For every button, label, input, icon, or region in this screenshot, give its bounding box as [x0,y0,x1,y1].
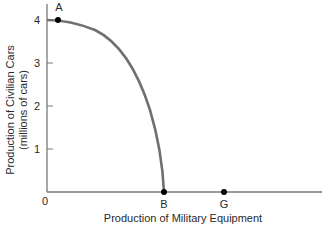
point-a [55,17,61,23]
ppf-chart: 4 3 2 1 0 A B G Production of Military E… [0,0,334,233]
y-tick-4: 4 [34,14,40,26]
point-a-label: A [55,1,63,13]
point-b [161,189,167,195]
point-b-label: B [160,198,167,210]
y-axis-title: Production of Civilian Cars [4,45,16,175]
x-axis-title: Production of Military Equipment [104,212,262,224]
point-g [221,189,227,195]
y-tick-1: 1 [34,143,40,155]
y-axis-subtitle: (millions of cars) [17,70,29,150]
y-tick-3: 3 [34,57,40,69]
y-ticks [47,20,53,149]
point-g-label: G [220,198,229,210]
origin-label: 0 [42,195,48,207]
ppf-curve [47,20,164,192]
y-tick-2: 2 [34,100,40,112]
